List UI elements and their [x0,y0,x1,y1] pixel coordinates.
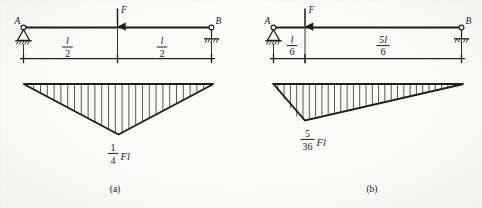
figure-root: A B F [0,0,482,208]
moment-value-a-unit: Fl [120,151,130,162]
moment-hatch-a [27,84,211,133]
panel-a: A B F [14,5,222,196]
dimension-a-2: l 2 [157,35,168,59]
dimension-b-1-numerator: l [291,34,294,45]
support-label-a-left: A [14,16,21,26]
dimension-a-1-numerator: l [66,35,69,46]
support-label-b-right: B [466,16,472,26]
dimension-b-2-denominator: 6 [380,46,385,57]
moment-diagram-b [274,84,464,121]
moment-value-a: 1 4 Fl [108,142,130,166]
dimension-b-1-denominator: 6 [289,46,294,57]
moment-value-a-numerator: 1 [111,142,116,153]
caption-a: (a) [110,184,121,195]
moment-diagram-a [24,84,214,135]
support-label-b-left: A [264,16,271,26]
caption-b: (b) [366,184,377,195]
support-label-a-right: B [216,16,222,26]
dimension-a-2-numerator: l [161,35,164,46]
dimension-b-1: l 6 [287,34,297,58]
moment-outline-a [24,84,214,135]
dimension-a-1-denominator: 2 [65,48,70,59]
load-label-b: F [308,5,315,15]
dimension-extensions-b [274,29,462,64]
dimension-line-b [270,54,465,63]
moment-value-a-denominator: 4 [111,155,116,166]
moment-value-b: 5 36 Fl [301,128,326,152]
dimension-a-2-denominator: 2 [159,48,164,59]
dimension-a-1: l 2 [62,35,73,59]
load-label-a: F [120,5,127,15]
moment-value-b-denominator: 36 [303,141,313,152]
beam-moment-figure: A B F [0,0,482,208]
moment-hatch-b [278,84,461,119]
panel-b: A B F [264,5,472,196]
dimension-b-2-numerator: 5l [379,34,387,45]
dimension-b-2: 5l 6 [376,34,389,58]
dimension-line-a [20,54,215,63]
moment-value-b-numerator: 5 [305,128,310,139]
moment-value-b-unit: Fl [316,137,326,148]
